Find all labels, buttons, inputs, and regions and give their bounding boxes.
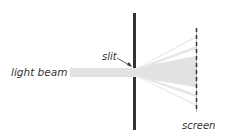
single-slit-diffraction-diagram: light beam slit screen bbox=[0, 0, 226, 139]
light-beam bbox=[70, 68, 134, 77]
central-maximum bbox=[134, 56, 196, 87]
barrier-bottom bbox=[133, 77, 136, 130]
screen-label: screen bbox=[182, 120, 215, 131]
barrier-top bbox=[133, 13, 136, 68]
slit-label: slit bbox=[102, 51, 118, 62]
light-beam-label: light beam bbox=[11, 66, 67, 78]
slit-arrowhead-icon bbox=[127, 62, 132, 67]
